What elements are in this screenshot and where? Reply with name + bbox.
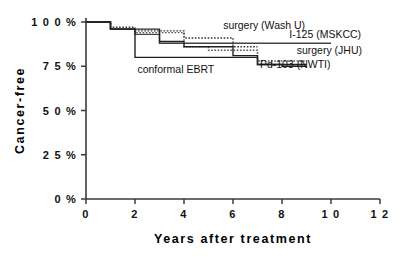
x-axis-title: Years after treatment bbox=[154, 232, 312, 246]
y-tick-label: 1 0 0 % bbox=[31, 16, 77, 28]
x-tick-label: 6 bbox=[229, 208, 236, 220]
y-axis-title: Cancer-free bbox=[13, 67, 27, 154]
series-label-2: surgery (JHU) bbox=[297, 44, 362, 56]
y-tick-label: 5 0 % bbox=[43, 105, 77, 117]
series-label-1: I-125 (MSKCC) bbox=[289, 28, 361, 40]
y-tick-label: 0 % bbox=[54, 193, 77, 205]
y-tick-label: 7 5 % bbox=[43, 60, 77, 72]
x-tick-label: 8 bbox=[278, 208, 285, 220]
y-tick-label: 2 5 % bbox=[43, 149, 77, 161]
x-tick-label: 1 2 bbox=[371, 208, 390, 220]
x-tick-label: 4 bbox=[180, 208, 187, 220]
series-label-3: Pd-103 (NWTI) bbox=[260, 58, 331, 70]
survival-chart-canvas: 0 %2 5 %5 0 %7 5 %1 0 0 %024681 01 2Year… bbox=[0, 0, 412, 257]
chart-figure: 0 %2 5 %5 0 %7 5 %1 0 0 %024681 01 2Year… bbox=[0, 0, 412, 257]
x-tick-label: 1 0 bbox=[322, 208, 341, 220]
series-label-4: conformal EBRT bbox=[137, 63, 214, 75]
x-tick-label: 2 bbox=[131, 208, 138, 220]
x-tick-label: 0 bbox=[82, 208, 89, 220]
